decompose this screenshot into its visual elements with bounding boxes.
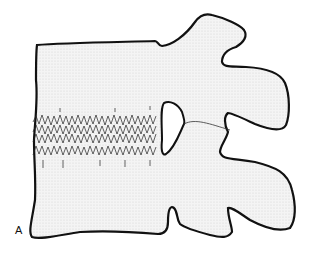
vertebra-illustration: [0, 0, 314, 261]
panel-label: A: [15, 224, 22, 236]
